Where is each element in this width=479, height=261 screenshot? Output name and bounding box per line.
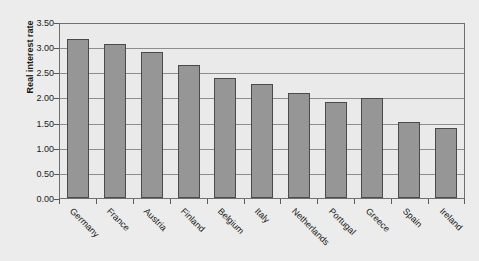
x-axis-label-slot: France <box>96 204 133 261</box>
bar-spain <box>398 122 420 198</box>
bar-slot <box>391 24 428 198</box>
x-axis-label-slot: Ireland <box>428 204 465 261</box>
x-axis-label-italy: Italy <box>253 206 272 225</box>
x-axis-label-ireland: Ireland <box>437 206 464 233</box>
y-axis-tick-label: 2.00 <box>14 94 54 103</box>
bar-italy <box>251 84 273 198</box>
y-axis-tick-labels: 3.503.002.502.001.501.000.500.00 <box>14 23 54 199</box>
bar-chart: Real interest rate 3.503.002.502.001.501… <box>0 0 479 261</box>
bar-ireland <box>435 128 457 198</box>
x-axis-label-slot: Belgium <box>207 204 244 261</box>
x-axis-label-austria: Austria <box>142 206 169 233</box>
x-axis-label-slot: Germany <box>59 204 96 261</box>
y-axis-tick-label: 3.00 <box>14 44 54 53</box>
bar-slot <box>60 24 97 198</box>
x-axis-label-greece: Greece <box>364 206 392 234</box>
bar-slot <box>427 24 464 198</box>
bar-slot <box>170 24 207 198</box>
y-axis-tick-label: 0.00 <box>14 195 54 204</box>
bar-greece <box>361 98 383 198</box>
x-axis-label-portugal: Portugal <box>327 206 358 237</box>
x-axis-label-finland: Finland <box>179 206 207 234</box>
bar-slot <box>133 24 170 198</box>
y-axis-tick-label: 0.50 <box>14 169 54 178</box>
bar-finland <box>178 65 200 198</box>
bar-austria <box>141 52 163 198</box>
x-axis-label-slot: Finland <box>170 204 207 261</box>
bar-slot <box>317 24 354 198</box>
bar-germany <box>67 39 89 198</box>
y-axis-tick-label: 3.50 <box>14 19 54 28</box>
bar-slot <box>97 24 134 198</box>
x-axis-label-slot: Austria <box>133 204 170 261</box>
bar-portugal <box>325 102 347 198</box>
x-axis-label-slot: Spain <box>391 204 428 261</box>
y-axis-tick-label: 1.50 <box>14 119 54 128</box>
bars-container <box>60 24 464 198</box>
x-axis-label-belgium: Belgium <box>216 206 246 236</box>
bar-slot <box>280 24 317 198</box>
bar-netherlands <box>288 93 310 198</box>
bar-france <box>104 44 126 198</box>
x-axis-label-france: France <box>105 206 132 233</box>
y-axis-tick-label: 1.00 <box>14 144 54 153</box>
x-axis-label-spain: Spain <box>401 206 424 229</box>
bar-slot <box>244 24 281 198</box>
x-axis-label-slot: Italy <box>244 204 281 261</box>
x-axis-label-slot: Netherlands <box>280 204 317 261</box>
bar-slot <box>207 24 244 198</box>
plot-area <box>59 23 465 199</box>
x-axis-label-slot: Greece <box>354 204 391 261</box>
bar-slot <box>354 24 391 198</box>
x-axis-label-slot: Portugal <box>317 204 354 261</box>
y-axis-tick-label: 2.50 <box>14 69 54 78</box>
bar-belgium <box>214 78 236 198</box>
x-axis-labels: GermanyFranceAustriaFinlandBelgiumItalyN… <box>59 204 465 261</box>
